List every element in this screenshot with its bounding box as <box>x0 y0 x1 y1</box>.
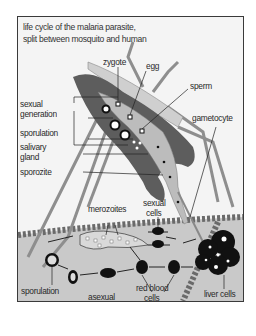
label-sperm: sperm <box>190 81 212 91</box>
title-line-1: life cycle of the malaria parasite, <box>23 21 146 33</box>
label-egg: egg <box>146 61 159 71</box>
label-sporulation-mosquito: sporulation <box>20 128 58 138</box>
label-red-blood-cells-line2: cells <box>144 293 159 302</box>
label-liver-cells: liver cells <box>204 289 235 299</box>
label-gametocyte: gametocyte <box>192 113 233 123</box>
label-zygote: zygote <box>103 57 126 67</box>
diagram-title: life cycle of the malaria parasite, spli… <box>23 21 146 45</box>
label-sexual-cells-line2: cells <box>146 208 161 218</box>
title-line-2: split between mosquito and human <box>23 33 146 45</box>
label-merozoites: merozoites <box>88 204 126 214</box>
label-sporozite: sporozite <box>20 167 52 177</box>
label-sporulation-human: sporulation <box>21 286 59 296</box>
label-sexual-generation-line2: generation <box>20 109 57 119</box>
label-salivary-gland-line2: gland <box>20 152 39 162</box>
malaria-lifecycle-illustration <box>18 17 243 301</box>
diagram-frame: life cycle of the malaria parasite, spli… <box>17 16 244 302</box>
